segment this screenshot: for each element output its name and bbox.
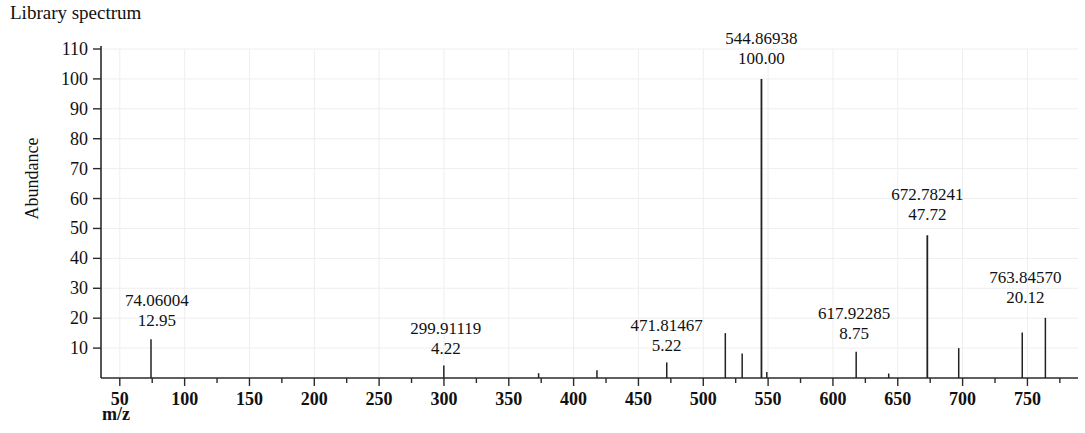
peak-mz-value: 74.06004 <box>97 291 217 311</box>
y-tick-label: 50 <box>28 219 88 237</box>
y-tick-label: 90 <box>28 100 88 118</box>
y-tick-label: 100 <box>28 70 88 88</box>
peak-mz-value: 617.92285 <box>794 304 914 324</box>
x-tick-label: 750 <box>987 390 1067 408</box>
peak-intensity-value: 20.12 <box>965 288 1085 308</box>
y-tick-label: 80 <box>28 130 88 148</box>
peak-mz-value: 471.81467 <box>607 316 727 336</box>
peak-mz-value: 672.78241 <box>867 185 987 205</box>
peak-intensity-value: 8.75 <box>794 324 914 344</box>
peak-mz-value: 299.91119 <box>386 319 506 339</box>
peak-intensity-value: 5.22 <box>607 336 727 356</box>
y-tick-label: 60 <box>28 190 88 208</box>
peak-label: 74.0600412.95 <box>97 291 217 331</box>
y-tick-label: 20 <box>28 309 88 327</box>
y-tick-label: 40 <box>28 249 88 267</box>
peak-label: 763.8457020.12 <box>965 268 1085 308</box>
x-axis-ticks <box>120 378 1060 386</box>
peak-intensity-value: 47.72 <box>867 205 987 225</box>
peak-label: 544.86938100.00 <box>701 29 821 69</box>
peak-mz-value: 763.84570 <box>965 268 1085 288</box>
peak-mz-value: 544.86938 <box>701 29 821 49</box>
peak-label: 299.911194.22 <box>386 319 506 359</box>
y-tick-label: 30 <box>28 279 88 297</box>
y-tick-label: 10 <box>28 339 88 357</box>
peak-intensity-value: 12.95 <box>97 311 217 331</box>
peak-intensity-value: 100.00 <box>701 49 821 69</box>
mass-spectrum-figure: Library spectrum Abundance m/z 102030405… <box>0 0 1085 433</box>
peak-label: 672.7824147.72 <box>867 185 987 225</box>
peak-label: 617.922858.75 <box>794 304 914 344</box>
peak-intensity-value: 4.22 <box>386 339 506 359</box>
y-tick-label: 70 <box>28 160 88 178</box>
y-tick-label: 110 <box>28 40 88 58</box>
peak-label: 471.814675.22 <box>607 316 727 356</box>
